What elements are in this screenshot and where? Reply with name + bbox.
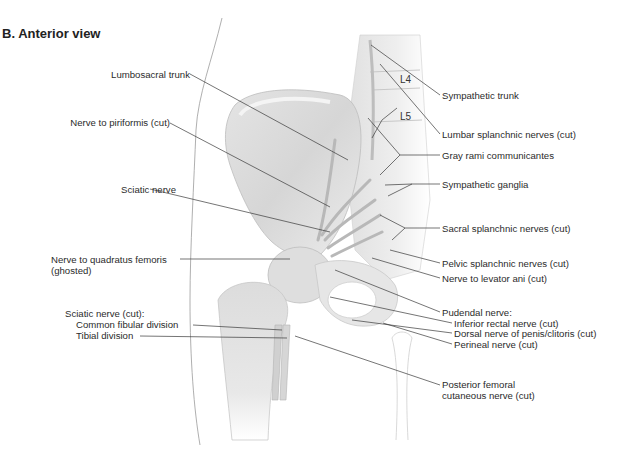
label-lumbar-splanchnic-nerves: Lumbar splanchnic nerves (cut)	[442, 129, 576, 140]
label-sympathetic-ganglia: Sympathetic ganglia	[442, 179, 528, 190]
label-gray-rami-communicantes: Gray rami communicantes	[442, 150, 554, 161]
label-sympathetic-trunk: Sympathetic trunk	[442, 90, 519, 101]
label-dorsal-nerve: Dorsal nerve of penis/clitoris (cut)	[454, 328, 596, 339]
ilium	[225, 90, 361, 257]
body-outline	[190, 18, 222, 445]
label-nerve-to-quadratus-femoris-note: (ghosted)	[51, 265, 92, 276]
vertebra-l5-label: L5	[400, 111, 411, 122]
label-lumbosacral-trunk: Lumbosacral trunk	[111, 69, 190, 80]
label-sciatic-nerve: Sciatic nerve	[121, 184, 176, 195]
label-nerve-to-quadratus-femoris: Nerve to quadratus femoris	[51, 254, 167, 265]
figure-title: B. Anterior view	[2, 26, 100, 41]
label-nerve-to-levator-ani: Nerve to levator ani (cut)	[442, 273, 547, 284]
label-nerve-to-piriformis: Nerve to piriformis (cut)	[70, 117, 170, 128]
label-sciatic-nerve-cut: Sciatic nerve (cut):	[65, 308, 144, 319]
label-tibial-division: Tibial division	[76, 330, 133, 341]
label-posterior-femoral-cutaneous-nerve-line2: cutaneous nerve (cut)	[442, 390, 535, 401]
label-pelvic-splanchnic-nerves: Pelvic splanchnic nerves (cut)	[442, 258, 569, 269]
label-pudendal-nerve: Pudendal nerve:	[442, 307, 512, 318]
label-common-fibular-division: Common fibular division	[76, 319, 178, 330]
label-perineal-nerve: Perineal nerve (cut)	[454, 339, 538, 350]
vertebra-l4-label: L4	[400, 74, 411, 85]
label-posterior-femoral-cutaneous-nerve: Posterior femoral	[442, 379, 515, 390]
label-sacral-splanchnic-nerves: Sacral splanchnic nerves (cut)	[442, 223, 571, 234]
